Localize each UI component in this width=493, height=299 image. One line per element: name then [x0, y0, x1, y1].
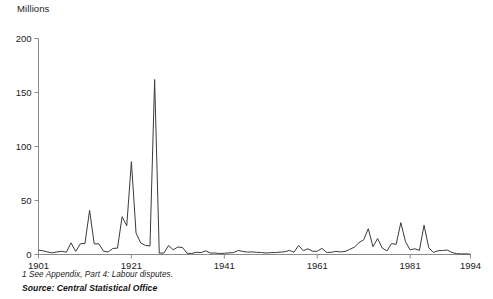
chart-figure: Millions 050100150200 190119211941196119…: [0, 0, 493, 299]
y-axis-ticks: 050100150200: [16, 33, 39, 260]
y-tick-label: 50: [21, 195, 32, 206]
y-tick-label: 100: [16, 141, 32, 152]
footnote-text: 1 See Appendix, Part 4: Labour disputes.: [22, 270, 173, 279]
chart-plot-area: 050100150200 190119211941196119811994: [0, 0, 493, 299]
x-tick-label: 1994: [460, 260, 481, 271]
y-tick-label: 200: [16, 33, 32, 44]
source-text: Source: Central Statistical Office: [22, 283, 157, 293]
x-axis-ticks: 190119211941196119811994: [28, 255, 481, 272]
data-series-line: [39, 80, 471, 255]
x-tick-label: 1981: [400, 260, 421, 271]
x-tick-label: 1941: [214, 260, 235, 271]
x-tick-label: 1961: [307, 260, 328, 271]
y-tick-label: 150: [16, 87, 32, 98]
y-tick-label: 0: [26, 249, 31, 260]
